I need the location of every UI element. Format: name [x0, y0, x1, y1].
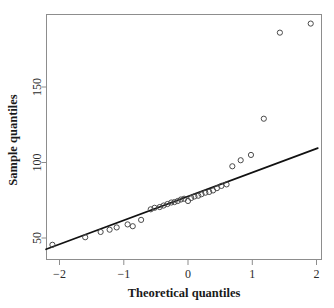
qq-plot-canvas: 50 100 150 −2 −1 0 1 2 Theoretical quant… — [0, 0, 334, 308]
x-tick-label-1: 1 — [249, 267, 255, 281]
y-tick-label-150: 150 — [30, 78, 44, 96]
x-tick-label-neg1: −1 — [117, 267, 130, 281]
x-axis-title: Theoretical quantiles — [128, 286, 241, 300]
y-tick-label-100: 100 — [30, 154, 44, 172]
qq-plot-figure: 50 100 150 −2 −1 0 1 2 Theoretical quant… — [0, 0, 334, 308]
y-tick-label-50: 50 — [30, 232, 44, 244]
figure-background — [0, 0, 334, 308]
x-tick-label-0: 0 — [185, 267, 191, 281]
y-axis-title: Sample quantiles — [6, 94, 20, 185]
x-tick-label-2: 2 — [314, 267, 320, 281]
x-tick-label-neg2: −2 — [53, 267, 66, 281]
